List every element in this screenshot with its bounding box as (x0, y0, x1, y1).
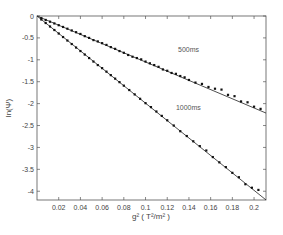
data-point-500ms (79, 33, 81, 35)
data-point-500ms (110, 46, 112, 48)
y-tick-label: -3.5 (22, 166, 34, 173)
data-point-1000ms (134, 93, 136, 95)
y-tick-label: -2.5 (22, 122, 34, 129)
data-point-1000ms (79, 50, 81, 52)
data-point-1000ms (205, 149, 207, 151)
data-point-500ms (240, 100, 242, 102)
data-point-1000ms (40, 18, 42, 20)
data-point-1000ms (186, 135, 188, 137)
y-tick-label: -1 (28, 56, 34, 63)
data-point-500ms (201, 83, 203, 85)
data-point-500ms (207, 86, 209, 88)
data-point-1000ms (257, 189, 259, 191)
y-tick-label: -3 (28, 144, 34, 151)
data-point-1000ms (62, 36, 64, 38)
data-point-1000ms (161, 115, 163, 117)
data-point-1000ms (71, 43, 73, 45)
annotations: 500ms1000ms (176, 46, 201, 111)
data-point-1000ms (105, 71, 107, 73)
x-axis-label: g² ( T²/m² ) (132, 212, 170, 221)
y-tick-label: 0 (30, 13, 34, 20)
data-point-500ms (75, 31, 77, 33)
data-point-500ms (71, 29, 73, 31)
data-point-500ms (149, 62, 151, 64)
data-point-1000ms (53, 29, 55, 31)
data-point-500ms (170, 72, 172, 74)
x-tick-label: 0.14 (182, 204, 196, 211)
data-point-500ms (114, 48, 116, 50)
data-point-1000ms (45, 22, 47, 24)
data-point-500ms (157, 66, 159, 68)
data-point-1000ms (150, 106, 152, 108)
data-point-1000ms (244, 183, 246, 185)
data-point-500ms (97, 40, 99, 42)
x-tick-label: 0.16 (204, 204, 218, 211)
data-point-500ms (214, 88, 216, 90)
data-point-1000ms (212, 156, 214, 158)
data-point-500ms (92, 39, 94, 41)
data-point-1000ms (97, 64, 99, 66)
data-point-500ms (253, 106, 255, 108)
data-point-500ms (179, 75, 181, 77)
data-point-1000ms (231, 172, 233, 174)
data-point-500ms (259, 108, 261, 110)
data-point-500ms (45, 19, 47, 21)
data-point-1000ms (128, 89, 130, 91)
data-point-1000ms (179, 130, 181, 132)
x-tick-label: 0.04 (74, 204, 88, 211)
data-point-500ms (127, 54, 129, 56)
data-point-500ms (227, 94, 229, 96)
data-point-500ms (175, 73, 177, 75)
x-tick-label: 0.08 (117, 204, 131, 211)
data-point-1000ms (66, 39, 68, 41)
data-point-500ms (123, 52, 125, 54)
data-point-500ms (88, 37, 90, 39)
ticks: 0.020.040.060.080.10.120.140.160.180.20-… (22, 13, 266, 212)
data-point-500ms (153, 64, 155, 66)
y-tick-label: -4 (28, 188, 34, 195)
data-point-500ms (53, 22, 55, 24)
data-point-500ms (140, 58, 142, 60)
data-point-500ms (220, 89, 222, 91)
data-point-1000ms (75, 46, 77, 48)
data-point-1000ms (218, 161, 220, 163)
data-point-500ms (118, 50, 120, 52)
data-point-1000ms (88, 57, 90, 59)
data-point-1000ms (114, 78, 116, 80)
data-point-500ms (162, 68, 164, 70)
data-point-500ms (131, 56, 133, 58)
data-point-1000ms (199, 145, 201, 147)
data-point-1000ms (225, 166, 227, 168)
data-point-1000ms (118, 81, 120, 83)
data-point-1000ms (101, 67, 103, 69)
data-point-1000ms (49, 25, 51, 27)
chart: 0.020.040.060.080.10.120.140.160.180.20-… (0, 0, 283, 235)
data-point-1000ms (144, 102, 146, 104)
data-point-500ms (66, 28, 68, 30)
data-point-1000ms (238, 176, 240, 178)
x-tick-label: 0.06 (95, 204, 109, 211)
data-point-1000ms (92, 60, 94, 62)
data-point-500ms (233, 95, 235, 97)
data-point-1000ms (166, 119, 168, 121)
x-tick-label: 0.1 (141, 204, 151, 211)
data-point-500ms (136, 57, 138, 59)
x-tick-label: 0.18 (226, 204, 240, 211)
y-tick-label: -0.5 (22, 34, 34, 41)
data-point-500ms (184, 76, 186, 78)
data-point-500ms (62, 26, 64, 28)
data-points (40, 17, 261, 191)
data-point-500ms (194, 81, 196, 83)
data-point-1000ms (123, 85, 125, 87)
data-point-1000ms (192, 140, 194, 142)
data-point-500ms (49, 21, 51, 23)
y-tick-label: -2 (28, 100, 34, 107)
data-point-1000ms (110, 74, 112, 76)
data-point-1000ms (251, 187, 253, 189)
x-tick-label: 0.02 (52, 204, 66, 211)
data-point-500ms (58, 24, 60, 26)
data-point-1000ms (173, 124, 175, 126)
annotation-label: 1000ms (176, 104, 201, 111)
annotation-label: 500ms (178, 46, 200, 53)
data-point-1000ms (139, 98, 141, 100)
